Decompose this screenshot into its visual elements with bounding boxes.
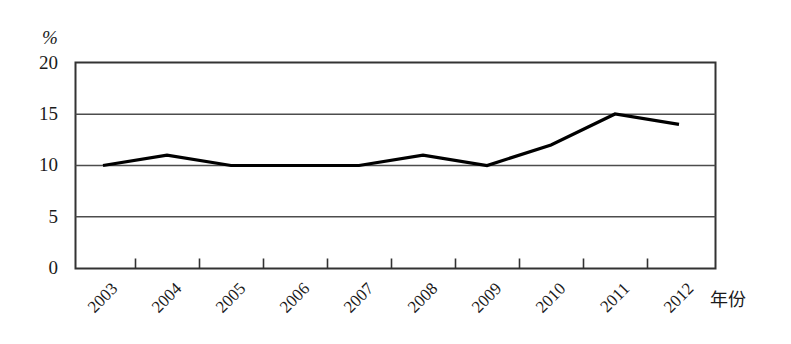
line-chart-figure: % 20 15 10 5 0 2003 2004 2005 2006 2007 [0, 0, 791, 344]
x-axis-title: 年份 [710, 285, 746, 311]
